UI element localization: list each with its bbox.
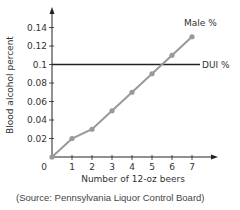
y-tick-label: 0.08 xyxy=(27,78,47,88)
male-data-point xyxy=(109,108,114,113)
male-data-point xyxy=(169,53,174,58)
line-chart: 0.020.040.060.080.10.120.14 1234567 0 DU… xyxy=(0,0,240,210)
x-tick-label: 4 xyxy=(129,162,135,172)
y-tick-label: 0.04 xyxy=(27,115,47,125)
male-label: Male % xyxy=(184,18,217,28)
x-tick-label: 1 xyxy=(69,162,75,172)
male-data-point xyxy=(129,90,134,95)
y-tick-label: 0.02 xyxy=(27,134,47,144)
y-axis-title: Blood alcohol percent xyxy=(5,36,15,134)
male-data-point xyxy=(49,154,54,159)
male-data-point xyxy=(89,127,94,132)
y-tick-label: 0.1 xyxy=(33,60,47,70)
y-ticks: 0.020.040.060.080.10.120.14 xyxy=(27,23,54,144)
male-data-point xyxy=(189,34,194,39)
x-ticks: 1234567 xyxy=(69,155,195,172)
y-tick-label: 0.12 xyxy=(27,41,47,51)
origin-label: 0 xyxy=(41,162,47,172)
x-tick-label: 6 xyxy=(169,162,175,172)
x-tick-label: 3 xyxy=(109,162,115,172)
x-axis-title: Number of 12-oz beers xyxy=(81,174,185,184)
dui-label: DUI % xyxy=(202,60,230,70)
y-axis-arrow-icon xyxy=(50,7,55,14)
male-data-point xyxy=(69,136,74,141)
x-tick-label: 7 xyxy=(189,162,195,172)
source-caption: (Source: Pennsylvania Liquor Control Boa… xyxy=(16,192,205,203)
y-tick-label: 0.06 xyxy=(27,97,47,107)
x-axis-arrow-icon xyxy=(211,155,218,160)
x-tick-label: 2 xyxy=(89,162,95,172)
x-tick-label: 5 xyxy=(149,162,155,172)
male-series-markers xyxy=(49,34,194,159)
y-tick-label: 0.14 xyxy=(27,23,47,33)
male-data-point xyxy=(149,71,154,76)
